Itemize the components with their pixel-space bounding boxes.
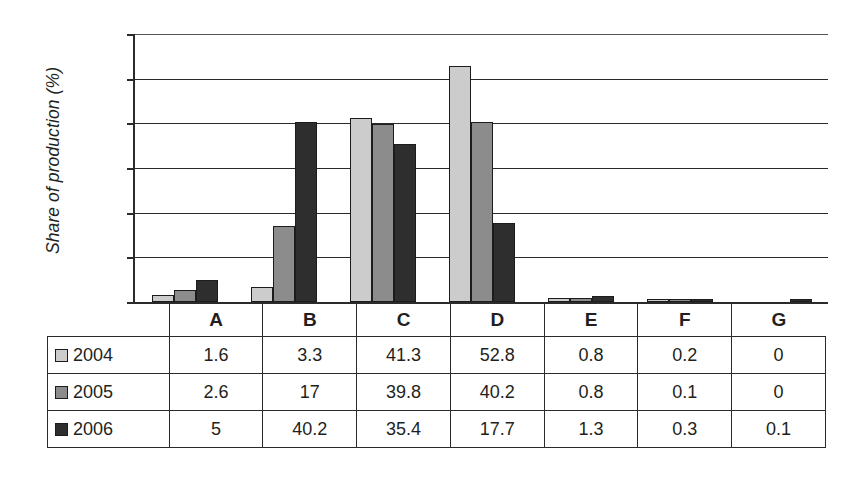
table-body: 20041.63.341.352.80.80.2020052.61739.840… [48,337,826,448]
table-cell-2006-F: 0.3 [638,411,732,448]
table-header-row: ABCDEFG [48,303,826,337]
bar-2005-B [273,226,295,302]
bar-2004-E [548,298,570,302]
y-tick-mark-10 [127,257,135,259]
bar-2006-A [196,280,218,302]
y-tick-mark-60 [127,34,135,36]
data-table: ABCDEFG 20041.63.341.352.80.80.2020052.6… [47,303,826,448]
bar-2006-E [592,296,614,302]
bar-group-A [135,34,234,302]
table-cell-2006-B: 40.2 [263,411,357,448]
table-row-header-2006: 2006 [48,411,170,448]
table-cell-2004-B: 3.3 [263,337,357,374]
table-row-header-2004: 2004 [48,337,170,374]
table-cell-2004-C: 41.3 [357,337,451,374]
bar-2005-E [570,298,592,302]
table-column-header-E: E [544,303,638,337]
table-cell-2006-D: 17.7 [450,411,544,448]
table-cell-2006-E: 1.3 [544,411,638,448]
table-cell-2005-G: 0 [732,374,826,411]
y-tick-mark-30 [127,168,135,170]
bar-series-container [135,34,828,302]
bar-2006-F [691,299,713,302]
table-header: ABCDEFG [48,303,826,337]
table-cell-2005-C: 39.8 [357,374,451,411]
legend-swatch-2004 [55,349,68,362]
plot-area: 6050403020100 [133,34,828,302]
bar-2006-D [493,223,515,302]
table-row: 2006540.235.417.71.30.30.1 [48,411,826,448]
plot-inner [135,34,828,302]
bar-group-E [531,34,630,302]
bar-group-G [729,34,828,302]
table-row: 20041.63.341.352.80.80.20 [48,337,826,374]
bar-2004-A [152,295,174,302]
table-cell-2005-B: 17 [263,374,357,411]
y-tick-mark-40 [127,123,135,125]
bar-2006-G [790,299,812,302]
table-column-header-C: C [357,303,451,337]
series-label-2005: 2005 [73,382,113,402]
bar-2006-B [295,122,317,302]
table-column-header-F: F [638,303,732,337]
bar-group-C [333,34,432,302]
series-label-2006: 2006 [73,419,113,439]
table-cell-2005-F: 0.1 [638,374,732,411]
y-tick-mark-20 [127,213,135,215]
bar-2004-D [449,66,471,302]
table-column-header-D: D [450,303,544,337]
bar-2004-F [647,299,669,302]
bar-2005-C [372,124,394,302]
bar-group-B [234,34,333,302]
table-cell-2006-C: 35.4 [357,411,451,448]
bar-2004-C [350,118,372,302]
table-cell-2004-G: 0 [732,337,826,374]
table-row: 20052.61739.840.20.80.10 [48,374,826,411]
bar-2005-F [669,299,691,302]
table-column-header-B: B [263,303,357,337]
table-cell-2004-E: 0.8 [544,337,638,374]
table-cell-2004-A: 1.6 [169,337,263,374]
table-cell-2005-A: 2.6 [169,374,263,411]
bar-2004-B [251,287,273,302]
y-axis-title: Share of production (%) [43,46,64,276]
table-cell-2004-F: 0.2 [638,337,732,374]
bar-2006-C [394,144,416,302]
y-tick-mark-50 [127,79,135,81]
bar-2005-A [174,290,196,302]
table-corner-cell [48,303,170,337]
table-cell-2005-D: 40.2 [450,374,544,411]
bar-group-F [630,34,729,302]
series-label-2004: 2004 [73,345,113,365]
legend-swatch-2005 [55,386,68,399]
table-column-header-G: G [732,303,826,337]
table-cell-2006-A: 5 [169,411,263,448]
legend-swatch-2006 [55,423,68,436]
table-column-header-A: A [169,303,263,337]
table-row-header-2005: 2005 [48,374,170,411]
bar-2005-D [471,122,493,302]
bar-group-D [432,34,531,302]
bar-chart-figure: Share of production (%) 6050403020100 AB… [0,0,865,498]
table-cell-2004-D: 52.8 [450,337,544,374]
table-cell-2006-G: 0.1 [732,411,826,448]
table-cell-2005-E: 0.8 [544,374,638,411]
